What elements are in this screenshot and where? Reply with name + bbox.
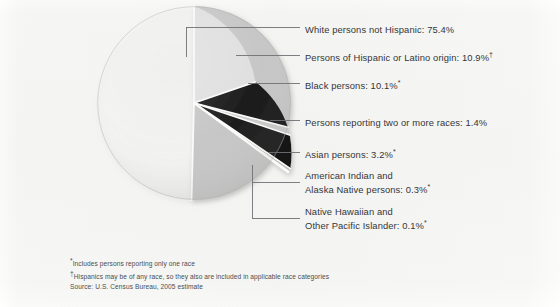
footnote-2: †Hispanics may be of any race, so they a…: [70, 269, 329, 282]
footnote-1-text: Includes persons reporting only one race: [73, 260, 195, 267]
callout-text-line1: Native Hawaiian and: [305, 206, 427, 217]
pie-chart-figure: White persons not Hispanic: 75.4% Person…: [0, 0, 560, 307]
callout-text: Asian persons: 3.2%: [305, 149, 393, 160]
callout-label-two-or-more-races: Persons reporting two or more races: 1.4…: [305, 114, 487, 129]
callout-footnote-mark: *: [398, 79, 401, 86]
callout-label-white-persons: White persons not Hispanic: 75.4%: [305, 21, 454, 36]
callout-footnote-mark: *: [393, 148, 396, 155]
pie-slices-group: [97, 6, 292, 200]
callout-label-black-persons: Black persons: 10.1%*: [305, 77, 400, 92]
callout-text: White persons not Hispanic: 75.4%: [305, 24, 454, 35]
footnotes-block: *Includes persons reporting only one rac…: [70, 256, 329, 291]
callout-footnote-mark: *: [428, 183, 431, 190]
callout-label-asian-persons: Asian persons: 3.2%*: [305, 146, 396, 161]
callout-text: Persons of Hispanic or Latino origin: 10…: [305, 52, 489, 63]
callout-label-hispanic: Persons of Hispanic or Latino origin: 10…: [305, 49, 493, 64]
callout-label-native-hawaiian: Native Hawaiian and Other Pacific Island…: [305, 206, 427, 232]
callout-text: Persons reporting two or more races: 1.4…: [305, 117, 487, 128]
footnote-2-text: Hispanics may be of any race, so they al…: [74, 273, 329, 280]
footnote-1: *Includes persons reporting only one rac…: [70, 256, 329, 269]
callout-footnote-mark: *: [424, 219, 427, 226]
callout-text-line2: Alaska Native persons: 0.3%*: [305, 181, 430, 196]
leader-line-native-hawaiian: [252, 182, 300, 218]
callout-text: Black persons: 10.1%: [305, 80, 398, 91]
callout-footnote-mark: †: [489, 51, 493, 58]
callout-text-line2: Other Pacific Islander: 0.1%*: [305, 217, 427, 232]
callout-label-american-indian: American Indian and Alaska Native person…: [305, 170, 430, 196]
callout-text-line1: American Indian and: [305, 170, 430, 181]
footnote-source: Source: U.S. Census Bureau, 2005 estimat…: [70, 282, 329, 292]
